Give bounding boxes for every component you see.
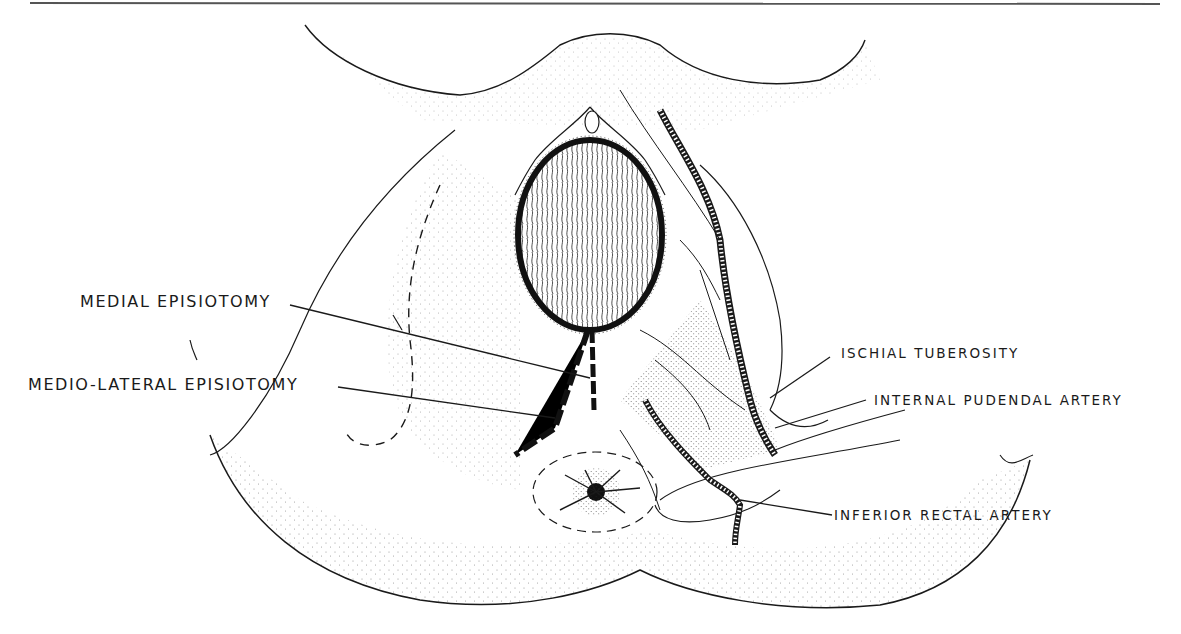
label-internal-pudendal-artery: INTERNAL PUDENDAL ARTERY	[874, 392, 1123, 408]
anatomical-diagram	[0, 0, 1181, 634]
label-inferior-rectal-artery: INFERIOR RECTAL ARTERY	[834, 507, 1053, 523]
label-ischial-tuberosity: ISCHIAL TUBEROSITY	[841, 345, 1019, 361]
anus	[533, 452, 657, 532]
right-contours	[620, 165, 1033, 522]
episiotomy-lines	[515, 330, 594, 455]
label-medio-lateral-episiotomy: MEDIO-LATERAL EPISIOTOMY	[28, 375, 298, 394]
label-medial-episiotomy: MEDIAL EPISIOTOMY	[80, 292, 271, 311]
top-rule	[30, 3, 1160, 4]
fetal-head	[514, 136, 666, 334]
